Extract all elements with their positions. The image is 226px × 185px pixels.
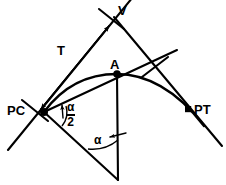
label-pt: PT xyxy=(194,103,211,116)
alpha-over-two-denominator: 2 xyxy=(66,116,75,129)
forward-tangent-line xyxy=(114,17,222,146)
pt-point-marker xyxy=(185,106,191,112)
curve-diagram: PC PT V A T α 2 α xyxy=(0,0,226,185)
label-pc: PC xyxy=(7,104,25,117)
label-alpha: α xyxy=(94,134,101,146)
vertical-ordinate-line xyxy=(117,74,118,180)
label-alpha-over-two: α 2 xyxy=(66,101,75,129)
label-tangent-length: T xyxy=(57,44,65,57)
alpha-arc xyxy=(88,140,118,149)
pc-point-marker xyxy=(40,108,48,116)
label-midpoint-a: A xyxy=(110,58,119,71)
alpha-over-two-numerator: α xyxy=(66,101,75,114)
label-vertex: V xyxy=(118,4,127,17)
curve-diagram-canvas xyxy=(0,0,226,185)
alpha-over-two-leader-arrow xyxy=(62,105,63,118)
